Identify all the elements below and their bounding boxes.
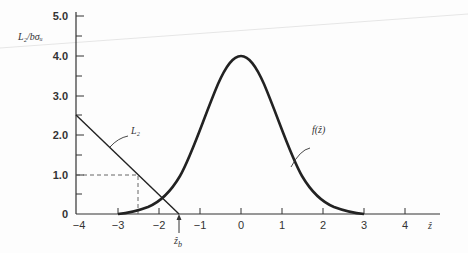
- l2-leader: [110, 136, 128, 147]
- zb-label: ẑb: [173, 235, 182, 249]
- svg-text:0: 0: [62, 208, 68, 220]
- svg-text:2: 2: [320, 219, 326, 231]
- svg-text:3: 3: [361, 219, 367, 231]
- svg-text:4.0: 4.0: [53, 50, 68, 62]
- chart: 0 1.0 2.0 3.0 4.0 5.0 L₂/bσᵤ −4 −3 −2 −1…: [0, 0, 468, 253]
- svg-text:1.0: 1.0: [53, 169, 68, 181]
- dashed-guide: [76, 175, 138, 214]
- scan-artifact: [0, 14, 468, 48]
- zb-arrowhead: [177, 214, 182, 220]
- svg-text:−2: −2: [153, 219, 166, 231]
- svg-text:3.0: 3.0: [53, 90, 68, 102]
- svg-text:1: 1: [279, 219, 285, 231]
- svg-text:0: 0: [238, 219, 244, 231]
- svg-text:−4: −4: [73, 219, 86, 231]
- y-axis-label: L₂/bσᵤ: [17, 31, 43, 42]
- l2-label: L₂: [130, 125, 141, 136]
- svg-text:4: 4: [402, 219, 408, 231]
- svg-text:−1: −1: [194, 219, 207, 231]
- x-tick-labels: −4 −3 −2 −1 0 1 2 3 4: [73, 219, 408, 231]
- f-label: f(ẑ): [312, 124, 326, 136]
- l2-line: [76, 115, 179, 214]
- svg-text:5.0: 5.0: [53, 10, 68, 22]
- svg-text:2.0: 2.0: [53, 129, 68, 141]
- svg-text:−3: −3: [112, 219, 125, 231]
- y-tick-labels: 0 1.0 2.0 3.0 4.0 5.0: [53, 10, 68, 220]
- x-axis-label: ẑ: [427, 220, 432, 231]
